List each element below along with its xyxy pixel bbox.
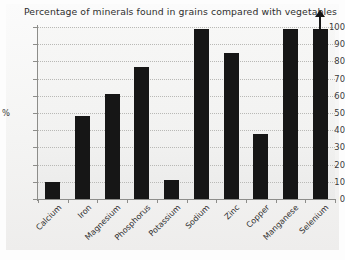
y-tick-mark <box>33 147 38 148</box>
bar-copper <box>253 134 268 199</box>
x-tick-mark <box>276 199 277 203</box>
y-tick-mark <box>33 130 38 131</box>
x-tick-mark <box>305 199 306 203</box>
y-tick-mark <box>33 79 38 80</box>
y-tick-label: 10 <box>319 177 345 187</box>
chart-figure: Percentage of minerals found in grains c… <box>0 0 345 260</box>
y-tick-label: 90 <box>319 39 345 49</box>
y-tick-mark <box>33 44 38 45</box>
x-tick-mark <box>216 199 217 203</box>
y-tick-mark <box>33 165 38 166</box>
bar-sodium <box>194 29 209 199</box>
x-tick-mark <box>157 199 158 203</box>
bar-phosphorus <box>134 67 149 199</box>
bar-zinc <box>224 53 239 199</box>
x-tick-mark <box>335 199 336 203</box>
y-tick-mark <box>33 113 38 114</box>
bar-potassium <box>164 180 179 199</box>
y-tick-mark <box>33 96 38 97</box>
y-axis-title: % <box>2 108 10 118</box>
y-tick-mark <box>33 182 38 183</box>
bar-calcium <box>45 182 60 199</box>
bar-iron <box>75 116 90 199</box>
y-tick-label: 40 <box>319 125 345 135</box>
y-tick-mark <box>33 27 38 28</box>
y-tick-mark <box>33 61 38 62</box>
y-tick-label: 20 <box>319 160 345 170</box>
bar-magnesium <box>105 94 120 199</box>
arrow-shaft <box>319 15 321 32</box>
y-tick-label: 60 <box>319 91 345 101</box>
y-tick-label: 50 <box>319 108 345 118</box>
plot-area <box>38 27 335 199</box>
y-tick-label: 30 <box>319 142 345 152</box>
y-tick-label: 80 <box>319 56 345 66</box>
x-tick-mark <box>68 199 69 203</box>
x-tick-mark <box>97 199 98 203</box>
chart-title: Percentage of minerals found in grains c… <box>24 6 344 17</box>
selenium-overflow-arrow-icon <box>315 10 325 32</box>
y-tick-label: 70 <box>319 74 345 84</box>
x-tick-mark <box>127 199 128 203</box>
x-tick-mark <box>187 199 188 203</box>
x-tick-mark <box>246 199 247 203</box>
x-tick-mark <box>38 199 39 203</box>
bar-manganese <box>283 29 298 199</box>
